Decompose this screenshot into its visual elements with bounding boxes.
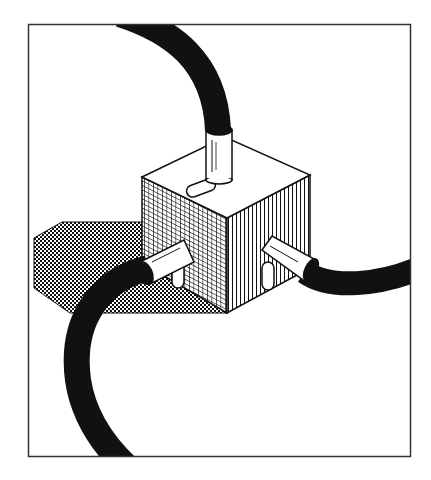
- top-cable: [120, 14, 218, 130]
- cube-illustration: [0, 0, 431, 480]
- right-cable: [305, 268, 420, 283]
- top-connector: [206, 125, 232, 184]
- right-slot: [262, 262, 274, 290]
